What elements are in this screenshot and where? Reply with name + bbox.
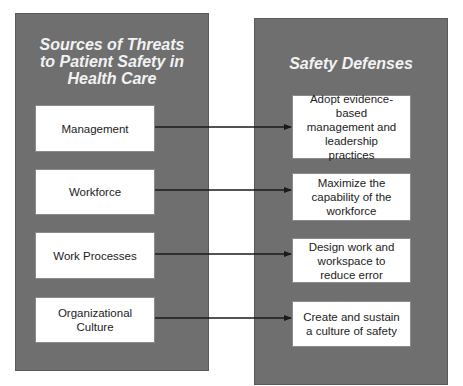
connector-arrows [0,0,463,386]
